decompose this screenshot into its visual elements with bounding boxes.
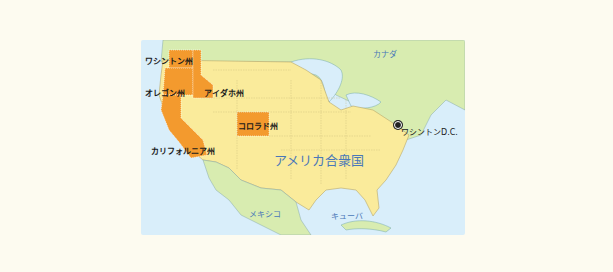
label-usa: アメリカ合衆国 — [274, 150, 364, 169]
label-mexico: メキシコ — [249, 208, 281, 219]
label-idaho: アイダホ州 — [204, 87, 244, 98]
label-oregon: オレゴン州 — [145, 87, 185, 98]
label-colorado: コロラド州 — [238, 120, 278, 131]
map-graphic — [141, 40, 465, 235]
label-canada: カナダ — [373, 48, 397, 59]
label-cuba: キューバ — [331, 210, 363, 221]
label-california: カリフォルニア州 — [151, 145, 215, 156]
label-washington: ワシントン州 — [145, 55, 193, 66]
us-map: ワシントン州 オレゴン州 アイダホ州 コロラド州 カリフォルニア州 カナダ アメ… — [141, 40, 465, 235]
label-washington-dc: ワシントンD.C. — [401, 126, 458, 137]
cuba-region — [341, 221, 391, 232]
